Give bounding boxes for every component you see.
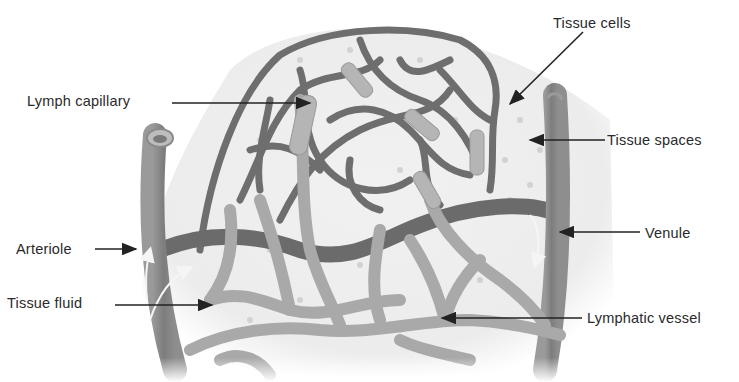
label-tissue-spaces: Tissue spaces [607,133,702,148]
label-tissue-fluid: Tissue fluid [7,296,82,311]
label-lymphatic-vessel: Lymphatic vessel [587,311,701,326]
label-venule: Venule [645,226,691,241]
label-tissue-cells: Tissue cells [553,16,631,31]
label-lymph-capillary: Lymph capillary [27,94,130,109]
label-arteriole: Arteriole [16,242,72,257]
